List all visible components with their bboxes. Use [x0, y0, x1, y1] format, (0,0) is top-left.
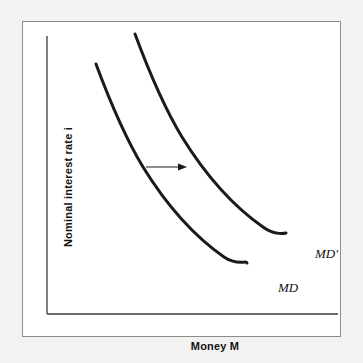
- curve-label-md: MD: [278, 280, 298, 296]
- rightward-shift-arrow: [146, 164, 187, 171]
- curve-md: [96, 64, 247, 263]
- plot-frame: Nominal interest rate i MD MD' Money M: [22, 21, 341, 337]
- figure-container: Nominal interest rate i MD MD' Money M: [0, 0, 363, 363]
- x-axis-label: Money M: [69, 340, 361, 352]
- curve-md-prime: [135, 34, 286, 233]
- y-axis-label: Nominal interest rate i: [62, 87, 74, 287]
- curve-label-md-prime: MD': [315, 246, 338, 262]
